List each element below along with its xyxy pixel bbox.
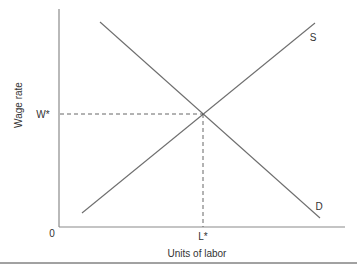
supply-curve [82,23,315,213]
y-axis-label: Wage rate [13,82,24,128]
demand-label: D [315,201,322,212]
x-axis-label: Units of labor [168,248,228,259]
labor-market-chart: Wage rate W* 0 L* Units of labor S D [0,0,357,271]
supply-label: S [310,32,317,43]
demand-curve [100,22,320,218]
origin-label: 0 [49,228,55,239]
l-star-label: L* [198,231,208,242]
w-star-label: W* [36,109,49,120]
